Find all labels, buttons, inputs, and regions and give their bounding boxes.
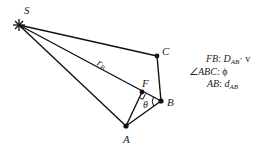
- line-S-B: [19, 25, 161, 101]
- geometry-diagram: [0, 0, 270, 149]
- label-theta: θ: [143, 100, 148, 110]
- line-S-C: [19, 25, 157, 56]
- legend-row-AB: AB: dAB: [207, 79, 238, 91]
- label-B: B: [167, 97, 174, 108]
- line-S-A: [19, 25, 126, 126]
- label-C: C: [162, 46, 169, 57]
- legend-row-FB: FB: DAB· v: [206, 54, 250, 66]
- label-S: S: [24, 5, 30, 16]
- point-C: [155, 54, 160, 59]
- angle-theta-arc: [152, 97, 153, 106]
- point-B: [158, 98, 163, 103]
- point-F: [140, 90, 145, 95]
- line-C-B: [157, 56, 161, 101]
- point-A: [123, 123, 128, 128]
- label-A: A: [123, 134, 130, 145]
- label-F: F: [142, 78, 149, 89]
- legend-row-ABC: ∠ABC: ϕ: [189, 67, 227, 77]
